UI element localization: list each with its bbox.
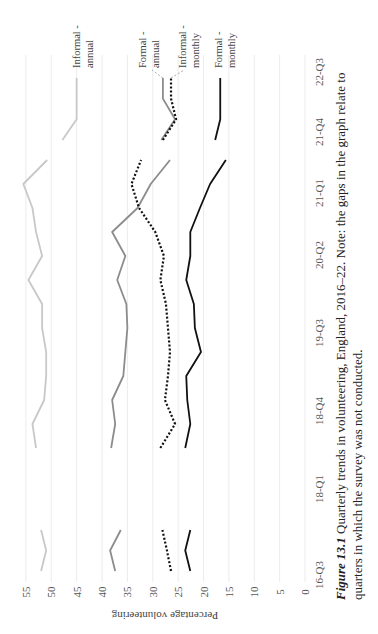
y-tick-label: 20	[198, 586, 210, 598]
legend-informal-monthly: Informal -	[177, 25, 188, 68]
x-tick-label: 20-Q2	[313, 241, 325, 269]
series-formal-monthly	[185, 160, 226, 448]
series-informal-annual	[62, 78, 76, 140]
legend-formal-monthly: Formal -	[213, 31, 224, 68]
svg-text:Figure 13.1 Quarterly trends i: Figure 13.1 Quarterly trends in voluntee…	[333, 73, 348, 601]
legend-formal-annual: Formal -	[137, 31, 148, 68]
y-tick-label: 45	[71, 586, 83, 598]
series-formal-monthly	[185, 530, 190, 571]
series-informal-monthly	[131, 160, 175, 448]
y-tick-label: 55	[20, 586, 32, 598]
x-tick-label: 18-Q4	[313, 396, 325, 425]
y-tick-label: 35	[121, 586, 133, 598]
legend-leader-formal-annual	[152, 70, 163, 78]
y-tick-label: 25	[172, 586, 184, 598]
chart-series	[23, 78, 225, 571]
y-axis-title: Percentage volunteering	[111, 610, 218, 622]
y-axis-tick-labels: 0510152025303540455055	[20, 586, 311, 598]
series-informal-annual	[41, 530, 46, 571]
x-tick-label: 18-Q1	[313, 475, 325, 503]
x-axis-tick-labels: 16-Q318-Q118-Q419-Q320-Q221-Q121-Q422-Q3	[313, 57, 325, 589]
series-informal-annual	[23, 160, 47, 448]
legend-formal-annual: annual	[150, 40, 161, 68]
series-formal-annual	[161, 78, 175, 140]
series-formal-annual	[111, 160, 170, 448]
x-tick-label: 21-Q1	[313, 179, 325, 207]
x-tick-label: 16-Q3	[313, 560, 325, 589]
legend-informal-annual: annual	[84, 40, 95, 68]
series-informal-monthly	[162, 530, 171, 571]
caption-figure-number: Figure 13.1	[333, 537, 348, 601]
y-tick-label: 10	[248, 586, 260, 598]
y-tick-label: 15	[223, 586, 235, 598]
legend-informal-annual: Informal -	[71, 25, 82, 68]
y-tick-label: 0	[299, 589, 311, 595]
y-tick-label: 30	[147, 586, 159, 598]
legend-leader-informal-monthly	[171, 70, 184, 78]
x-tick-label: 19-Q3	[313, 318, 325, 347]
legend-formal-monthly: monthly	[226, 32, 237, 68]
y-tick-label: 5	[274, 589, 286, 595]
series-formal-monthly	[215, 78, 220, 140]
x-tick-label: 22-Q3	[313, 57, 325, 86]
volunteering-line-chart: 0510152025303540455055 Percentage volunt…	[0, 0, 378, 634]
figure-caption: Figure 13.1 Quarterly trends in voluntee…	[333, 73, 365, 601]
y-tick-label: 40	[96, 586, 108, 598]
caption-text-line-2: quarters in which the survey was not con…	[350, 349, 365, 600]
y-tick-label: 50	[45, 586, 57, 598]
caption-text-line-1: Quarterly trends in volunteering, Englan…	[333, 73, 348, 538]
legend-informal-monthly: monthly	[190, 32, 201, 68]
chart-legend: Informal -annualFormal -annualInformal -…	[71, 25, 237, 78]
x-tick-label: 21-Q4	[313, 117, 325, 146]
series-formal-annual	[110, 530, 121, 571]
